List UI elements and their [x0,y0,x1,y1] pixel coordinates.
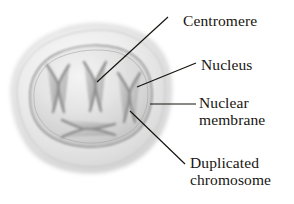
label-nuclear-membrane-line1: Nuclear [199,94,294,111]
label-centromere: Centromere [183,12,257,29]
label-nuclear-membrane: Nuclear membrane [199,94,294,128]
label-nucleus: Nucleus [201,56,253,73]
label-duplicated-chromosome-line1: Duplicated [190,154,294,171]
label-duplicated-chromosome: Duplicated chromosome [190,154,294,188]
label-duplicated-chromosome-line2: chromosome [190,171,294,188]
cell-diagram-figure: Centromere Nucleus Nuclear membrane Dupl… [0,0,294,204]
label-nuclear-membrane-line2: membrane [199,111,294,128]
